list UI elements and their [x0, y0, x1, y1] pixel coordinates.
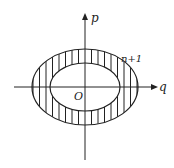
- origin-label: O: [74, 90, 83, 103]
- region-label: n+1: [121, 53, 142, 64]
- p-axis-label: p: [91, 11, 99, 25]
- q-axis-arrow-icon: [151, 84, 158, 90]
- p-axis-arrow-icon: [82, 13, 88, 20]
- phase-space-diagram: p q O n+1: [0, 0, 174, 168]
- q-axis-label: q: [159, 80, 167, 94]
- diagram-canvas: p q O n+1: [0, 0, 174, 168]
